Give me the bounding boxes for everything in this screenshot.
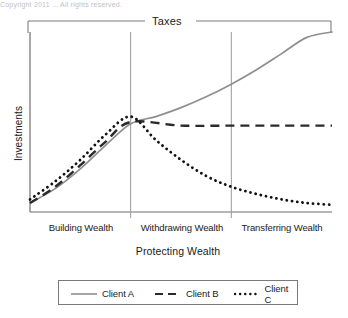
x-segment-label-withdrawing-wealth: Withdrawing Wealth	[132, 222, 232, 233]
series-lines	[30, 32, 332, 205]
y-axis-label: Investments	[13, 94, 24, 174]
legend-item-client-b: Client B	[155, 281, 218, 306]
legend-item-client-c: Client C	[234, 281, 297, 306]
taxes-bracket-label: Taxes	[152, 15, 182, 27]
chart-canvas	[0, 0, 348, 318]
legend-swatch-solid-icon	[71, 290, 97, 298]
x-segment-label-transferring-wealth: Transferring Wealth	[232, 222, 332, 233]
legend-swatch-dashed-icon	[155, 290, 181, 298]
legend-label-client-c: Client C	[265, 283, 297, 305]
legend-label-client-b: Client B	[186, 288, 218, 299]
legend-label-client-a: Client A	[102, 288, 134, 299]
x-segment-label-building-wealth: Building Wealth	[30, 222, 132, 233]
legend-swatch-dotted-icon	[234, 290, 260, 298]
legend-item-client-a: Client A	[71, 281, 134, 306]
x-axis-title: Protecting Wealth	[108, 245, 248, 257]
chart-legend: Client A Client B Client C	[58, 280, 298, 305]
chart-axes	[30, 32, 332, 212]
investments-taxes-chart: Copyright 2011 ... All rights reserved. …	[0, 0, 348, 318]
